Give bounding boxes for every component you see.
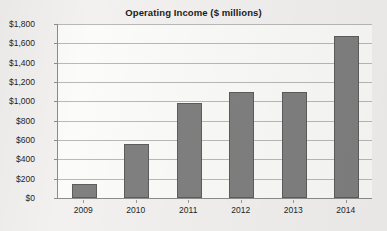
bar-slot: [72, 24, 97, 198]
x-tick-mark: [293, 200, 294, 203]
bar-chart-figure: Operating Income ($ millions) $0$200$400…: [0, 0, 387, 231]
bar-slot: [229, 24, 254, 198]
y-tick-label: $200: [0, 174, 35, 184]
chart-title: Operating Income ($ millions): [0, 7, 387, 18]
gridline: [58, 198, 372, 199]
y-tick-label: $1,000: [0, 96, 35, 106]
bar-slot: [334, 24, 359, 198]
y-tick-label: $400: [0, 154, 35, 164]
x-tick-mark: [188, 200, 189, 203]
x-tick-mark: [136, 200, 137, 203]
bar-2012[interactable]: [229, 92, 254, 198]
bar-2011[interactable]: [177, 103, 202, 198]
x-tick-mark: [83, 200, 84, 203]
bar-slot: [177, 24, 202, 198]
x-tick-mark: [346, 200, 347, 203]
bar-2013[interactable]: [282, 92, 307, 198]
x-axis-ticks: 200920102011201220132014: [57, 200, 372, 218]
x-tick-label-2012: 2012: [215, 205, 268, 215]
bar-slot: [124, 24, 149, 198]
x-tick-label-2011: 2011: [162, 205, 215, 215]
y-tick-label: $1,400: [0, 58, 35, 68]
y-tick-label: $800: [0, 116, 35, 126]
y-tick-label: $1,800: [0, 19, 35, 29]
plot-area: $0$200$400$600$800$1,000$1,200$1,400$1,6…: [57, 24, 372, 198]
y-tick-label: $1,600: [0, 38, 35, 48]
x-tick-label-2009: 2009: [57, 205, 110, 215]
y-tick-mark: [54, 198, 58, 199]
y-tick-label: $600: [0, 135, 35, 145]
bar-series: [58, 24, 372, 198]
bar-2014[interactable]: [334, 36, 359, 198]
y-tick-label: $0: [0, 193, 35, 203]
x-tick-mark: [241, 200, 242, 203]
bar-2010[interactable]: [124, 144, 149, 198]
bar-2009[interactable]: [72, 184, 97, 199]
plot-wrapper: $0$200$400$600$800$1,000$1,200$1,400$1,6…: [57, 24, 372, 198]
bar-slot: [282, 24, 307, 198]
y-tick-label: $1,200: [0, 77, 35, 87]
x-tick-label-2014: 2014: [320, 205, 373, 215]
x-tick-label-2013: 2013: [267, 205, 320, 215]
x-tick-label-2010: 2010: [110, 205, 163, 215]
